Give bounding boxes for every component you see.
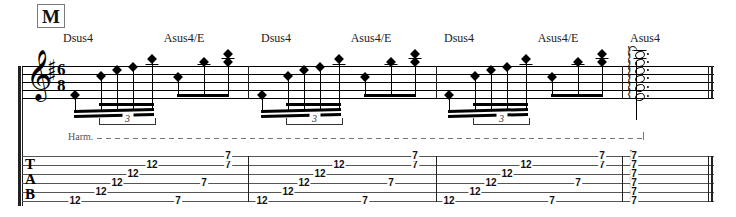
chord-symbol: Asus4/E	[164, 31, 205, 46]
system-bracket	[18, 66, 21, 206]
tab-letter-a: A	[25, 172, 36, 187]
ledger-line	[198, 64, 211, 65]
chord-symbol: Dsus4	[261, 31, 291, 46]
rehearsal-mark-letter: M	[42, 7, 60, 26]
tab-fret-number: 7	[174, 196, 182, 206]
tab-fret-number: 7	[224, 151, 232, 161]
tab-fret-number: 12	[255, 196, 268, 206]
tab-fret-number: 12	[519, 160, 532, 170]
note-stem	[578, 62, 579, 97]
rehearsal-mark-box: M	[37, 4, 65, 28]
tab-fret-number: 12	[332, 160, 345, 170]
tab-fret-number: 12	[68, 196, 81, 206]
tab-fret-number: 7	[387, 178, 395, 188]
tab-fret-number: 7	[548, 196, 556, 206]
arpeggio-roll-icon: ⌇⌇⌇⌇⌇⌇⌇	[626, 48, 632, 97]
tab-fret-number: 12	[145, 160, 158, 170]
triplet-number: 3	[122, 113, 133, 124]
chord-symbol: Asus4/E	[351, 31, 392, 46]
harmonic-line-end-tick	[643, 132, 644, 140]
triplet-bracket: 3	[286, 118, 343, 125]
final-barline	[711, 66, 713, 99]
chord-symbol: Dsus4	[63, 31, 93, 46]
harmonic-dashed-line	[97, 138, 643, 139]
beam	[99, 103, 154, 106]
beam	[286, 103, 341, 106]
key-signature-sharp-icon: ♯	[47, 66, 56, 85]
harmonic-technique-label: Harm.	[68, 131, 93, 142]
augmentation-dot	[647, 53, 649, 55]
note-stem	[228, 54, 229, 97]
tab-fret-number: 7	[574, 178, 582, 188]
staff-line	[22, 66, 714, 67]
tab-fret-number: 12	[281, 187, 294, 197]
tab-fret-number: 12	[94, 187, 107, 197]
tab-barline	[248, 156, 249, 202]
tab-fret-number: 12	[297, 178, 310, 188]
staff-line	[22, 90, 714, 91]
tab-line	[22, 156, 714, 157]
triplet-bracket: 3	[99, 118, 156, 125]
barline	[622, 66, 623, 99]
tab-fret-number: 12	[500, 169, 513, 179]
barline	[436, 66, 437, 99]
staff-line	[22, 98, 714, 99]
augmentation-dot	[647, 61, 649, 63]
tab-letter-t: T	[25, 157, 35, 172]
staff-line	[22, 82, 714, 83]
note-stem	[391, 62, 392, 97]
beam	[551, 94, 603, 97]
tab-line	[22, 183, 714, 184]
tab-fret-number: 12	[484, 178, 497, 188]
tab-fret-number: 7	[200, 178, 208, 188]
tab-barline	[708, 156, 709, 202]
beam	[364, 94, 416, 97]
tab-fret-number: 12	[313, 169, 326, 179]
note-stem	[204, 62, 205, 97]
note-stem	[602, 54, 603, 97]
triplet-number: 3	[496, 113, 507, 124]
tab-fret-number: 7	[224, 160, 232, 170]
ledger-line	[634, 58, 647, 59]
tab-fret-number: 7	[411, 151, 419, 161]
chord-symbol: Dsus4	[444, 31, 474, 46]
tab-fret-number: 12	[442, 196, 455, 206]
tab-line	[22, 192, 714, 193]
beam	[473, 103, 528, 106]
tab-fret-number: 7	[630, 196, 638, 206]
music-score-sheet: M Dsus4 Asus4/E Dsus4 Asus4/E Dsus4 Asus…	[0, 0, 736, 217]
ledger-line	[634, 50, 647, 51]
time-signature: 6 8	[57, 62, 66, 94]
time-signature-denominator: 8	[57, 78, 66, 94]
triplet-number: 3	[309, 113, 320, 124]
note-stem	[636, 62, 637, 120]
tab-fret-number: 12	[468, 187, 481, 197]
barline	[248, 66, 249, 99]
note-stem	[415, 54, 416, 97]
tab-line	[22, 165, 714, 166]
barline	[708, 66, 709, 99]
tab-fret-number: 7	[411, 160, 419, 170]
triplet-bracket: 3	[473, 118, 530, 125]
tab-final-barline	[711, 156, 713, 202]
chord-symbol: Asus4/E	[538, 31, 579, 46]
tab-fret-number: 7	[361, 196, 369, 206]
tab-fret-number: 12	[126, 169, 139, 179]
beam	[177, 94, 229, 97]
tab-letter-b: B	[25, 187, 35, 202]
tab-fret-number: 12	[110, 178, 123, 188]
tab-fret-number: 7	[598, 160, 606, 170]
tab-barline	[436, 156, 437, 202]
tab-barline	[622, 156, 623, 202]
tab-fret-number: 7	[598, 151, 606, 161]
